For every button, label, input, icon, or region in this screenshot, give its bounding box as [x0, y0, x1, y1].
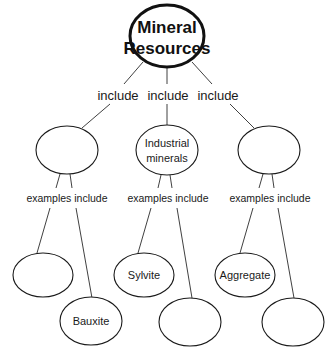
level2-node-left: [36, 126, 98, 174]
industrial-label-line1: Industrial: [145, 137, 190, 149]
root-label-line2: Resources: [124, 39, 211, 58]
link-label-include-left: include: [97, 88, 138, 103]
link-label-examples-right: examples include: [229, 192, 310, 204]
aggregate-label: Aggregate: [220, 269, 271, 281]
level2-node-right: [238, 126, 300, 174]
root-label-line1: Mineral: [137, 18, 197, 37]
root-node-mineral-resources: Mineral Resources: [124, 5, 211, 67]
link-label-examples-middle: examples include: [127, 192, 208, 204]
sylvite-label: Sylvite: [128, 269, 160, 281]
industrial-label-line2: minerals: [146, 152, 188, 164]
concept-map: Mineral Resources include include includ…: [0, 0, 334, 359]
level2-node-industrial-minerals: Industrial minerals: [136, 125, 198, 175]
level3-node-aggregate: Aggregate: [215, 253, 275, 297]
link-label-examples-left: examples include: [26, 192, 107, 204]
bauxite-label: Bauxite: [73, 315, 110, 327]
level3-node-right-b: [262, 298, 324, 346]
level3-node-sylvite: Sylvite: [114, 253, 174, 297]
link-label-include-right: include: [197, 88, 238, 103]
link-label-include-middle: include: [147, 88, 188, 103]
level3-node-left-a: [13, 253, 73, 297]
level3-node-middle-b: [159, 298, 221, 346]
level3-node-bauxite: Bauxite: [60, 297, 122, 345]
